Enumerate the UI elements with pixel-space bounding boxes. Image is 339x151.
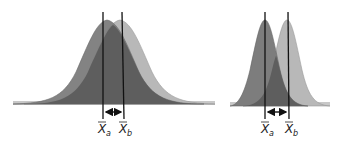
svg-text:b: b: [127, 129, 132, 138]
svg-text:a: a: [269, 129, 274, 138]
left-overlap-region: [24, 25, 204, 104]
distribution-comparison-diagram: X a X b X a X b: [0, 0, 339, 151]
right-panel: X a X b: [230, 12, 330, 138]
left-panel: X a X b: [13, 12, 215, 138]
right-label-a: X a: [260, 122, 274, 138]
right-label-b: X b: [284, 122, 298, 138]
svg-text:b: b: [293, 129, 298, 138]
svg-text:a: a: [106, 129, 111, 138]
left-label-b: X b: [118, 122, 132, 138]
left-label-a: X a: [97, 122, 111, 138]
